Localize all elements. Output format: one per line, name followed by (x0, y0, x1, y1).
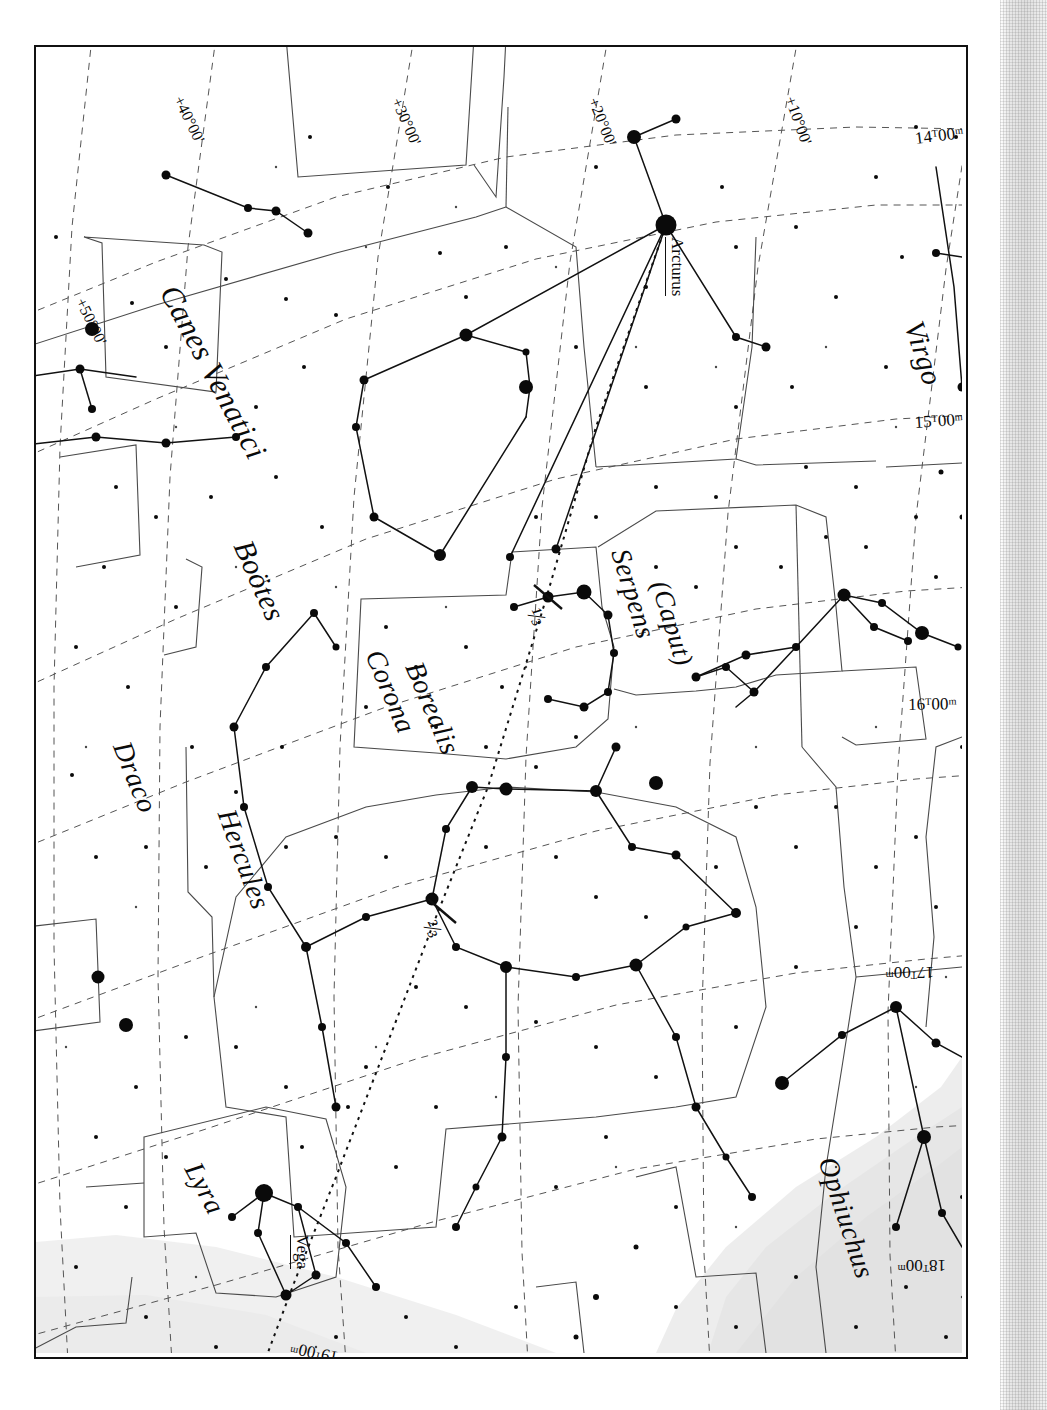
right-ascension-label-1: 15ᵀ00ᵐ (914, 410, 964, 433)
constellation-boundaries (36, 47, 962, 1353)
right-ascension-label-2: 16ᵀ00ᵐ (908, 694, 957, 715)
star-vega (255, 1184, 273, 1202)
star-chart-page: Canes VenaticiVirgoBoötesCoronaBorealisS… (0, 0, 1047, 1410)
page-scan-edge (1000, 0, 1047, 1410)
ecliptic-path (264, 225, 666, 1353)
star-arcturus (656, 215, 677, 236)
sky-map-svg (36, 47, 962, 1353)
star-label-arcturus: Arcturus (665, 237, 687, 296)
right-ascension-label-4: 18ᵀ00ᵐ (898, 1255, 946, 1275)
milky-way-band (36, 1057, 962, 1353)
chart-frame: Canes VenaticiVirgoBoötesCoronaBorealisS… (34, 45, 968, 1359)
star-label-vega: Vega (290, 1235, 312, 1269)
right-ascension-label-3: 17ᵀ00ᵐ (886, 962, 934, 982)
